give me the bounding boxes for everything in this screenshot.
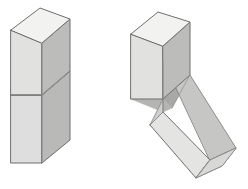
left-front-lower-face [11, 95, 42, 163]
block-rotation-illustration [0, 0, 248, 189]
left-figure-intact-block [11, 8, 70, 163]
figure-canvas [0, 0, 248, 189]
